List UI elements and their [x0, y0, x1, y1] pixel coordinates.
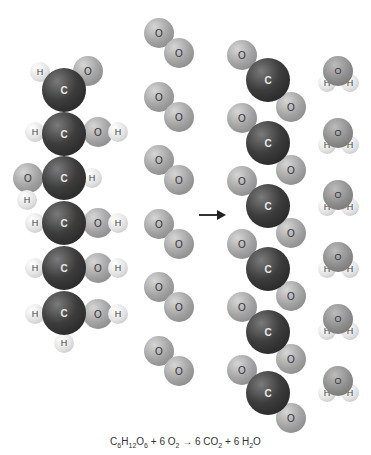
hydrogen-atom: H [108, 258, 128, 278]
carbon-atom: C [246, 247, 290, 291]
eq-coefficient: 6 [234, 436, 242, 447]
hydrogen-atom: H [54, 333, 74, 353]
eq-arrow: → [179, 436, 195, 447]
eq-glucose-o: O [136, 436, 144, 447]
oxygen-atom: O [323, 118, 353, 148]
oxygen-atom: O [323, 56, 353, 86]
carbon-atom: C [42, 68, 86, 112]
eq-plus: + [222, 436, 233, 447]
eq-h2o-o: O [253, 436, 261, 447]
oxygen-atom: O [164, 38, 194, 68]
carbon-atom: C [42, 201, 86, 245]
oxygen-atom: O [164, 165, 194, 195]
oxygen-atom: O [323, 366, 353, 396]
hydrogen-atom: H [108, 304, 128, 324]
carbon-atom: C [42, 156, 86, 200]
reaction-arrow-icon [199, 210, 227, 220]
oxygen-atom: O [323, 304, 353, 334]
carbon-atom: C [246, 371, 290, 415]
carbon-atom: C [42, 112, 86, 156]
oxygen-atom: O [13, 163, 43, 193]
oxygen-atom: O [164, 356, 194, 386]
eq-o2: O [168, 436, 176, 447]
carbon-atom: C [42, 246, 86, 290]
oxygen-atom: O [164, 292, 194, 322]
eq-co2: CO [203, 436, 218, 447]
hydrogen-atom: H [17, 190, 37, 210]
carbon-atom: C [42, 291, 86, 335]
carbon-atom: C [246, 58, 290, 102]
carbon-atom: C [246, 310, 290, 354]
hydrogen-atom: H [108, 122, 128, 142]
oxygen-atom: O [323, 180, 353, 210]
eq-plus: + [148, 436, 159, 447]
oxygen-atom: O [164, 102, 194, 132]
carbon-atom: C [246, 184, 290, 228]
hydrogen-atom: H [108, 213, 128, 233]
chemical-equation: C6H12O6 + 6 O2 → 6 CO2 + 6 H2O [0, 436, 371, 449]
carbon-atom: C [246, 121, 290, 165]
oxygen-atom: O [164, 229, 194, 259]
eq-coefficient: 6 [159, 436, 167, 447]
oxygen-atom: O [323, 242, 353, 272]
